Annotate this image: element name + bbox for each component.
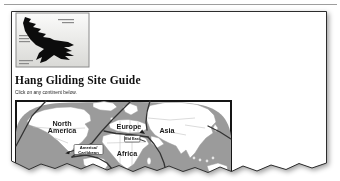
eagle-logo: [16, 13, 89, 67]
svg-text:Mid East[interactable]: Mid East: [125, 137, 141, 141]
instruction-text: Click on any continent below.: [15, 90, 77, 95]
map-label-north-america-line2[interactable]: America: [48, 126, 77, 135]
svg-text:Caribbean[interactable]: Caribbean: [78, 150, 99, 155]
page-graphic: Hang Gliding Site Guide Click on any con…: [0, 0, 340, 180]
map-label-asia[interactable]: Asia: [159, 126, 175, 135]
map-label-africa[interactable]: Africa: [117, 149, 138, 158]
world-map: North America Europe Asia Africa America…: [16, 101, 231, 180]
page: Hang Gliding Site Guide Click on any con…: [12, 12, 327, 181]
map-label-europe[interactable]: Europe: [117, 122, 142, 131]
madagascar: [147, 158, 151, 165]
page-title: Hang Gliding Site Guide: [15, 74, 141, 87]
browser-viewport: Hang Gliding Site Guide Click on any con…: [0, 0, 340, 180]
